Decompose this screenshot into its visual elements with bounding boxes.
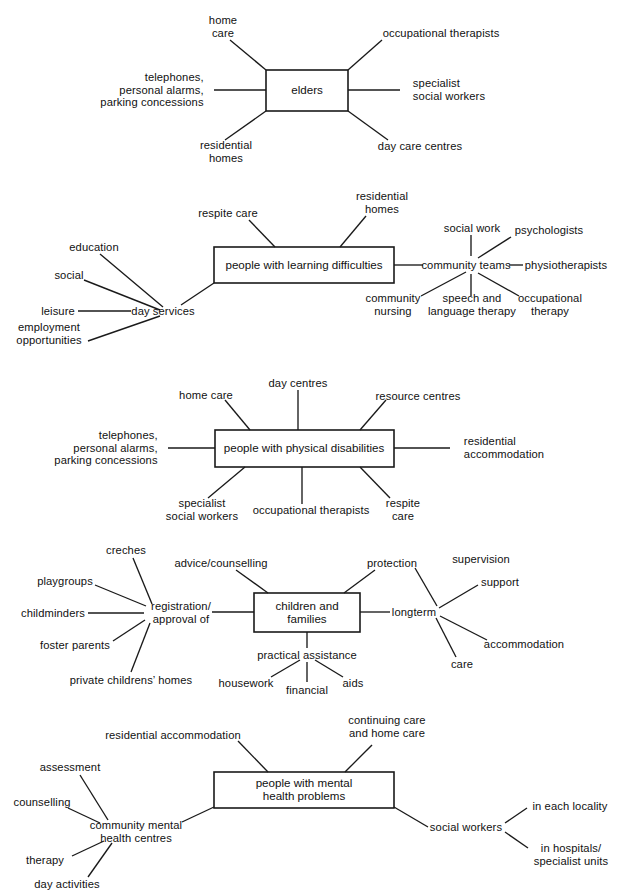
label-cf-foster-parents: foster parents [40, 639, 110, 652]
label-pd-day-centres: day centres [269, 377, 328, 390]
label-pd-respite-care: respite care [386, 497, 420, 522]
label-ld-leisure: leisure [41, 305, 75, 318]
label-ld-residential-homes: residential homes [356, 190, 408, 215]
wire-lt-support [439, 585, 478, 608]
wire-ld-day-services [181, 283, 214, 305]
label-mh-therapy: therapy [26, 854, 64, 867]
label-ld-employment-opportunities: employment opportunities [16, 321, 81, 346]
wire-reg-playgroups [95, 585, 146, 606]
label-cf-longterm: longterm [392, 606, 436, 619]
wire-pa-housework [271, 660, 300, 677]
label-mh-continuing-care: continuing care and home care [348, 714, 425, 739]
center-label-physical-disabilities: people with physical disabilities [224, 441, 384, 454]
label-ld-community-nursing: community nursing [366, 292, 421, 317]
label-elders-specialist-social-workers: specialist social workers [413, 77, 485, 102]
label-ld-education: education [69, 241, 118, 254]
wire-reg-private-homes [131, 623, 150, 672]
label-ld-occupational-therapy: occupational therapy [518, 292, 582, 317]
label-ld-speech-language-therapy: speech and language therapy [428, 292, 516, 317]
label-cf-registration-approval: registration/ approval of [151, 600, 211, 625]
wire-sw-in-each-locality [505, 808, 527, 823]
label-cf-housework: housework [218, 677, 273, 690]
label-cf-care: care [451, 658, 473, 671]
label-pd-telephones: telephones, personal alarms, parking con… [54, 429, 157, 467]
label-pd-residential-accommodation: residential accommodation [464, 435, 544, 460]
label-elders-telephones: telephones, personal alarms, parking con… [100, 71, 203, 109]
label-cf-childminders: childminders [21, 607, 85, 620]
label-cf-advice-counselling: advice/counselling [174, 557, 267, 570]
wire-ld-respite-care [249, 220, 275, 247]
label-cf-aids: aids [343, 677, 364, 690]
label-cf-practical-assistance: practical assistance [257, 649, 357, 662]
label-mh-in-hospitals: in hospitals/ specialist units [534, 842, 608, 867]
label-cf-financial: financial [286, 684, 328, 697]
wire-pa-aids [315, 660, 343, 677]
label-pd-specialist-social-workers: specialist social workers [166, 497, 238, 522]
label-cf-creches: creches [106, 544, 146, 557]
center-label-mental-health: people with mental health problems [256, 776, 353, 803]
label-elders-home-care: home care [209, 14, 237, 39]
wire-lt-care [436, 618, 456, 657]
label-pd-resource-centres: resource centres [376, 390, 461, 403]
label-cf-playgroups: playgroups [37, 575, 93, 588]
label-elders-day-care-centres: day care centres [378, 140, 462, 153]
center-label-learning-difficulties: people with learning difficulties [225, 258, 382, 271]
label-elders-occupational-therapists: occupational therapists [383, 27, 500, 40]
wire-cf-advice-counselling [236, 570, 268, 593]
wire-ds-employment [88, 316, 160, 341]
wire-mh-social-workers [394, 807, 428, 827]
wire-reg-foster-parents [113, 620, 145, 641]
wire-elders-home-care [230, 40, 266, 70]
label-pd-home-care: home care [179, 389, 233, 402]
wire-elders-residential-homes [225, 111, 266, 140]
label-ld-physiotherapists: physiotherapists [525, 259, 607, 272]
wire-reg-creches [133, 558, 152, 604]
label-mh-social-workers: social workers [430, 821, 502, 834]
label-ld-community-teams: community teams [421, 259, 510, 272]
label-mh-in-each-locality: in each locality [533, 800, 608, 813]
center-label-children-and-families: children and families [275, 599, 338, 626]
wire-mh-continuing-care [345, 745, 372, 772]
label-mh-assessment: assessment [40, 761, 101, 774]
wire-lt-accommodation [440, 616, 487, 640]
label-pd-occupational-therapists: occupational therapists [253, 504, 370, 517]
wire-sw-in-hospitals [505, 832, 528, 848]
wire-ds-education [100, 254, 163, 307]
wire-pd-resource-centres [360, 400, 386, 430]
label-cf-supervision: supervision [452, 553, 510, 566]
label-mh-day-activities: day activities [34, 878, 99, 891]
wire-pd-respite-care [360, 467, 390, 498]
wire-cf-protection [344, 570, 375, 593]
label-ld-psychologists: psychologists [515, 224, 583, 237]
label-mh-cmhc: community mental health centres [90, 819, 182, 844]
wire-mh-residential-accommodation [238, 741, 268, 772]
diagram-page: elders home care occupational therapists… [0, 0, 623, 895]
label-ld-social-work: social work [444, 222, 500, 235]
wire-pd-specialist-social-workers [208, 467, 245, 498]
wire-cmhc-day-activities [88, 843, 112, 877]
label-ld-social: social [54, 269, 83, 282]
wire-pd-home-care [225, 400, 250, 430]
label-ld-respite-care: respite care [198, 207, 258, 220]
label-ld-day-services: day services [131, 305, 194, 318]
label-cf-protection: protection [367, 557, 417, 570]
wire-cmhc-assessment [80, 775, 108, 820]
wire-mh-cmhc [182, 807, 214, 822]
label-elders-residential-homes: residential homes [200, 139, 252, 164]
label-mh-residential-accommodation: residential accommodation [105, 729, 241, 742]
label-cf-private-childrens-homes: private childrens’ homes [70, 674, 193, 687]
center-label-elders: elders [291, 83, 323, 96]
wire-ct-psychologists [478, 237, 511, 258]
label-cf-support: support [481, 576, 519, 589]
wire-elders-day-care-centres [348, 111, 388, 140]
wire-elders-occupational-therapists [348, 40, 382, 70]
label-mh-counselling: counselling [13, 796, 70, 809]
wire-ld-residential-homes [340, 216, 366, 247]
label-cf-accommodation: accommodation [484, 638, 564, 651]
wire-lt-supervision [415, 568, 437, 606]
